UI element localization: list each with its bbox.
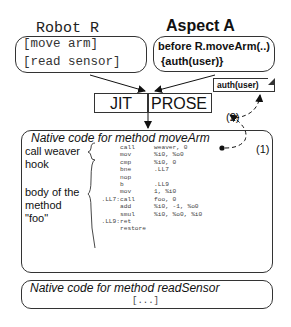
asm-line: smul%i0, %o0, %i0 <box>98 211 202 218</box>
read-sensor-block-title: Native code for method readSensor <box>30 281 219 295</box>
weaver-hook-label: call weaver hook <box>25 145 80 171</box>
asm-line: bne.LL7 <box>98 166 202 173</box>
asm-line: callweaver, 0 <box>98 144 202 151</box>
move-arm-block-title: Native code for method moveArm <box>31 131 210 145</box>
weaver-hook-label-line1: call weaver <box>25 145 80 158</box>
asm-line: mov%i0, %o0 <box>98 151 202 158</box>
asm-line: restore <box>98 225 202 232</box>
method-body-label: body of the method "foo" <box>25 186 79 225</box>
asm-line: mov1, %i0 <box>98 188 202 195</box>
method-body-label-line1: body of the <box>25 186 79 199</box>
asm-line: .LL7:callfoo, 0 <box>98 196 202 203</box>
aspect-box: before R.moveArm(..) {auth(user)} <box>153 36 275 72</box>
read-sensor-native-block: Native code for method readSensor [...] <box>21 280 273 309</box>
read-sensor-ellipsis: [...] <box>132 296 159 306</box>
asm-line: add%i0, -1, %o0 <box>98 203 202 210</box>
asm-line: cmp%i0, 0 <box>98 159 202 166</box>
asm-line: nop <box>98 174 202 181</box>
note-label: auth(user) <box>217 80 259 90</box>
prose-box: PROSE <box>148 93 212 113</box>
aspect-advice: {auth(user)} <box>158 53 223 70</box>
assembly-listing: callweaver, 0 mov%i0, %o0 cmp%i0, 0 bne.… <box>98 144 202 233</box>
robot-method-read-sensor: [read sensor] <box>23 53 121 71</box>
aspect-title: Aspect A <box>166 17 235 35</box>
weaver-hook-label-line2: hook <box>25 158 80 171</box>
asm-line: .LL9:ret <box>98 218 202 225</box>
robot-method-move-arm: [move arm] <box>23 35 98 53</box>
auth-user-note: auth(user) <box>213 78 275 92</box>
method-body-label-line2: method <box>25 199 79 212</box>
jit-box: JIT <box>94 93 148 113</box>
note-fold-corner <box>268 78 275 85</box>
robot-box: [move arm] [read sensor] <box>15 36 147 73</box>
method-body-label-line3: "foo" <box>25 212 79 225</box>
asm-line: b.LL9 <box>98 181 202 188</box>
step-2-marker: (2) <box>226 111 239 123</box>
